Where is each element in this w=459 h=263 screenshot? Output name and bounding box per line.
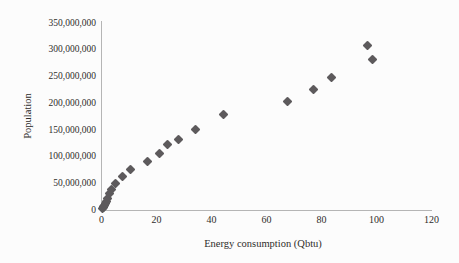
x-axis-title: Energy consumption (Qbtu) xyxy=(204,238,322,249)
y-tick-label: 350,000,000 xyxy=(24,18,96,29)
data-point-marker xyxy=(117,172,127,182)
x-tick-label: 120 xyxy=(412,214,452,226)
data-point-marker xyxy=(163,140,173,150)
y-tick-label: 200,000,000 xyxy=(24,98,96,109)
x-axis-line xyxy=(101,210,432,211)
data-point-marker xyxy=(154,149,164,159)
data-point-marker xyxy=(309,84,319,94)
data-point-marker xyxy=(174,135,184,145)
x-tick-label: 100 xyxy=(357,214,397,226)
x-tick-label: 80 xyxy=(302,214,342,226)
y-axis-line xyxy=(101,21,102,211)
data-point-marker xyxy=(142,156,152,166)
data-point-marker xyxy=(327,72,337,82)
x-tick-label: 0 xyxy=(82,214,122,226)
y-tick-label: 100,000,000 xyxy=(24,151,96,162)
y-tick-label: 250,000,000 xyxy=(24,71,96,82)
y-tick-label: 300,000,000 xyxy=(24,44,96,55)
data-point-marker xyxy=(282,97,292,107)
y-tick-label: 50,000,000 xyxy=(24,178,96,189)
x-tick-label: 40 xyxy=(192,214,232,226)
data-point-marker xyxy=(367,55,377,65)
data-point-marker xyxy=(219,109,229,119)
x-tick-label: 60 xyxy=(247,214,287,226)
data-point-marker xyxy=(190,124,200,134)
scatter-chart: Population Energy consumption (Qbtu) 050… xyxy=(0,0,459,263)
x-tick-label: 20 xyxy=(137,214,177,226)
data-point-marker xyxy=(363,40,373,50)
data-point-marker xyxy=(125,165,135,175)
y-tick-label: 150,000,000 xyxy=(24,125,96,136)
